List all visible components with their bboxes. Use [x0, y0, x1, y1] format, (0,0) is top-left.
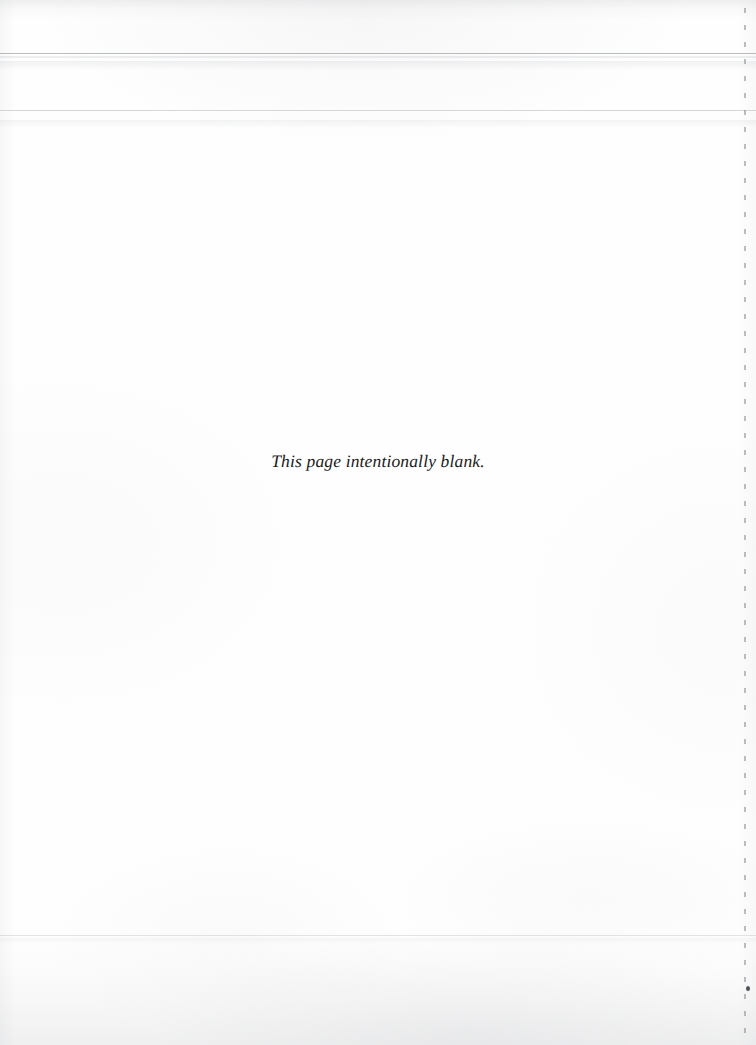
blank-page-notice: This page intentionally blank.: [0, 450, 756, 472]
top-edge-shading: [0, 0, 756, 20]
scan-band-footer: [0, 938, 756, 944]
scanned-page: This page intentionally blank.: [0, 0, 756, 1045]
right-edge-shading: [738, 0, 756, 1045]
scan-rule-secondary: [0, 56, 756, 58]
right-edge-dotted-line: [744, 8, 746, 1038]
left-edge-shading: [0, 0, 16, 1045]
paper-texture: [0, 0, 756, 1045]
scan-band-upper: [0, 61, 756, 69]
bottom-edge-shading: [0, 930, 756, 1045]
edge-speck: [746, 986, 750, 991]
scan-rule-primary: [0, 53, 756, 54]
scan-band-lower: [0, 120, 756, 127]
scan-rule-footer: [0, 935, 756, 936]
scan-rule-tertiary: [0, 110, 756, 111]
